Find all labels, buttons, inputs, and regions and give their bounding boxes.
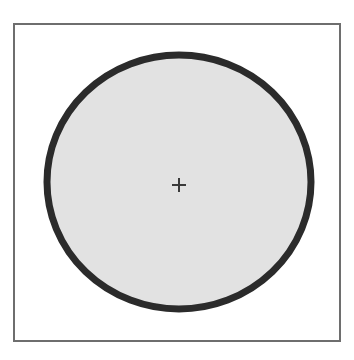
figure-canvas	[0, 0, 354, 360]
circle-grid-diagram	[0, 0, 354, 360]
